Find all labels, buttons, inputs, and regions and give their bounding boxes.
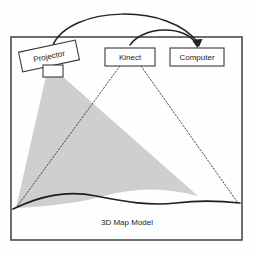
projector-lens <box>43 65 63 77</box>
diagram-root: Projector Kinect Computer 3D Map Model <box>0 0 257 257</box>
projector-light-cone <box>16 76 198 208</box>
diagram-canvas: Projector Kinect Computer 3D Map Model <box>0 0 257 257</box>
node-computer[interactable]: Computer <box>170 48 224 66</box>
terrain-caption: 3D Map Model <box>101 218 153 227</box>
computer-label: Computer <box>179 53 214 62</box>
node-kinect[interactable]: Kinect <box>105 48 155 66</box>
kinect-label: Kinect <box>119 53 142 62</box>
node-projector[interactable]: Projector <box>19 40 80 77</box>
